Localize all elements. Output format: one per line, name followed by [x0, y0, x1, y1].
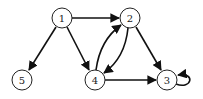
edge-4-2	[96, 25, 121, 70]
node-2: 2	[120, 8, 140, 28]
node-4: 4	[85, 70, 105, 90]
node-label: 3	[164, 75, 170, 86]
node-label: 1	[59, 13, 65, 24]
node-1: 1	[52, 8, 72, 28]
edge-2-3	[136, 27, 161, 70]
node-label: 5	[19, 75, 25, 86]
edge-1-4	[67, 27, 89, 70]
node-5: 5	[12, 70, 32, 90]
node-label: 2	[127, 13, 133, 24]
graph-diagram: 1 2 3 4 5	[0, 0, 203, 99]
node-label: 4	[92, 75, 98, 86]
edge-3-3-self-loop	[176, 75, 190, 86]
edge-2-4	[104, 28, 128, 73]
edge-1-5	[29, 27, 56, 70]
node-3: 3	[157, 70, 177, 90]
